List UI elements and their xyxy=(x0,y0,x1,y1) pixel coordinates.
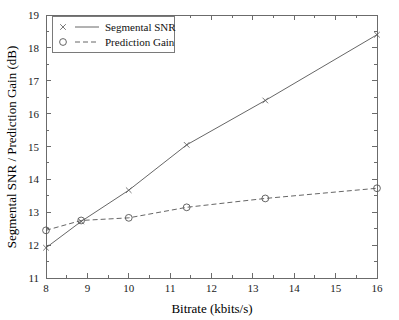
y-axis-label: Segmental SNR / Prediction Gain (dB) xyxy=(4,46,19,249)
axes xyxy=(46,15,377,278)
x-tick-label-15: 15 xyxy=(330,282,342,294)
y-tick-label-15: 15 xyxy=(28,141,40,153)
x-tick-label-12: 12 xyxy=(206,282,217,294)
chart-legend: Segmental SNRPrediction Gain xyxy=(52,16,176,52)
x-tick-label-14: 14 xyxy=(289,282,301,294)
y-tick-label-19: 19 xyxy=(28,9,40,21)
y-tick-label-17: 17 xyxy=(28,75,40,87)
line-chart: 8910111213141516 111213141516171819 Segm… xyxy=(0,0,399,320)
x-axis-ticks: 8910111213141516 xyxy=(43,15,383,294)
x-marker-icon xyxy=(184,142,190,148)
y-tick-label-14: 14 xyxy=(28,173,40,185)
y-tick-label-12: 12 xyxy=(28,239,39,251)
series-2 xyxy=(43,185,381,234)
series-line xyxy=(46,35,377,248)
x-axis-label: Bitrate (kbits/s) xyxy=(171,301,252,316)
y-tick-label-11: 11 xyxy=(28,272,39,284)
legend-label: Prediction Gain xyxy=(105,36,175,48)
legend-label: Segmental SNR xyxy=(105,21,176,33)
x-marker-icon xyxy=(126,187,132,193)
x-tick-label-10: 10 xyxy=(123,282,135,294)
series-1 xyxy=(43,32,380,251)
y-tick-label-13: 13 xyxy=(28,206,40,218)
data-series xyxy=(43,32,381,251)
x-tick-label-11: 11 xyxy=(165,282,176,294)
y-tick-label-16: 16 xyxy=(28,108,40,120)
series-line xyxy=(46,188,377,230)
y-tick-label-18: 18 xyxy=(28,42,40,54)
chart-figure: 8910111213141516 111213141516171819 Segm… xyxy=(0,0,399,320)
x-tick-label-13: 13 xyxy=(247,282,259,294)
x-tick-label-16: 16 xyxy=(372,282,384,294)
x-tick-label-9: 9 xyxy=(85,282,91,294)
x-tick-label-8: 8 xyxy=(43,282,49,294)
x-marker-icon xyxy=(262,98,268,104)
